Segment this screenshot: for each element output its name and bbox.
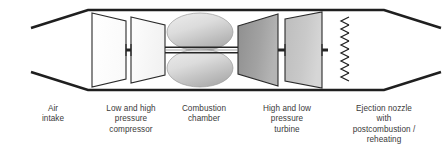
label-turbine: High and low pressure turbine: [239, 104, 335, 135]
afterburner-chevrons-icon: [341, 17, 349, 81]
label-combustion-chamber: Combustion chamber: [156, 104, 252, 125]
label-ejection-nozzle: Ejection nozzle with postcombustion / re…: [325, 104, 443, 146]
high-pressure-compressor-stage: [131, 17, 165, 83]
combustion-chamber-lower-lobe: [167, 49, 233, 87]
label-row: Air intake Low and high pressure compres…: [0, 100, 446, 163]
jet-engine-diagram: Air intake Low and high pressure compres…: [0, 0, 446, 163]
low-pressure-compressor-stage: [92, 13, 126, 87]
high-pressure-turbine-stage: [238, 14, 278, 86]
low-pressure-turbine-stage: [285, 12, 322, 88]
combustion-chamber-upper-lobe: [167, 13, 233, 51]
engine-schematic: [0, 0, 446, 100]
